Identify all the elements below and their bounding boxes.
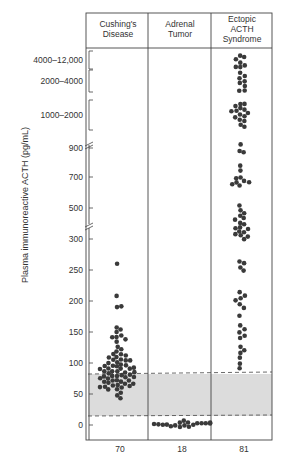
data-point	[98, 385, 103, 390]
y-tick-label: 300	[13, 234, 83, 244]
header-line: Disease	[88, 29, 148, 39]
data-point	[152, 422, 157, 427]
data-point	[123, 358, 128, 363]
data-point	[242, 237, 247, 242]
y-tick-label: 100	[13, 358, 83, 368]
data-point	[241, 216, 246, 221]
data-point	[242, 211, 247, 216]
data-point	[238, 296, 243, 301]
data-point	[238, 65, 243, 70]
data-point	[234, 108, 239, 113]
data-point	[128, 372, 133, 377]
data-point	[115, 387, 120, 392]
data-point	[111, 383, 116, 388]
data-point	[115, 378, 120, 383]
y-tick-label: 500	[13, 203, 83, 213]
y-tick-label: 50	[13, 389, 83, 399]
data-point	[181, 418, 186, 423]
data-point	[238, 168, 243, 173]
data-point	[169, 424, 174, 429]
data-point	[115, 305, 120, 310]
data-point	[191, 423, 196, 428]
data-point	[123, 353, 128, 358]
data-point	[195, 421, 200, 426]
data-point	[237, 366, 242, 371]
data-point	[241, 150, 246, 155]
data-point	[106, 380, 111, 385]
header-line: Tumor	[150, 29, 210, 39]
count-adrenal: 18	[162, 444, 202, 454]
data-point	[242, 306, 247, 311]
data-point	[102, 379, 107, 384]
data-point	[156, 422, 161, 427]
data-point	[114, 294, 119, 299]
data-point	[238, 355, 243, 360]
data-point	[238, 81, 243, 86]
data-point	[233, 115, 238, 120]
data-point	[238, 53, 243, 58]
data-point	[242, 107, 247, 112]
data-point	[237, 203, 242, 208]
data-point	[123, 337, 128, 342]
y-tick-label: 250	[13, 265, 83, 275]
data-point	[246, 234, 251, 239]
data-point	[238, 361, 243, 366]
data-point	[238, 323, 243, 328]
range-bracket-label: 4000–12,000	[13, 55, 83, 65]
data-point	[119, 357, 124, 362]
data-point	[233, 217, 238, 222]
data-point	[132, 370, 137, 375]
data-point	[165, 422, 170, 427]
data-point	[237, 314, 242, 319]
y-tick-label: 900	[13, 143, 83, 153]
data-point	[114, 335, 119, 340]
range-bracket-label: 1000–2000	[13, 110, 83, 120]
data-point	[178, 420, 183, 425]
count-cushings: 70	[100, 444, 140, 454]
header-adrenal-tumor: Adrenal Tumor	[150, 19, 210, 39]
data-point	[237, 76, 242, 81]
y-tick-label: 150	[13, 327, 83, 337]
data-point	[124, 363, 129, 368]
data-point	[238, 175, 243, 180]
header-line: Adrenal	[150, 19, 210, 29]
data-point	[123, 381, 128, 386]
header-line: ACTH	[212, 24, 272, 34]
data-point	[238, 233, 243, 238]
data-point	[242, 327, 247, 332]
data-point	[234, 65, 239, 70]
data-point	[237, 290, 242, 295]
data-point	[107, 355, 112, 360]
data-point	[238, 336, 243, 341]
data-point	[102, 369, 107, 374]
data-point	[114, 330, 119, 335]
data-point	[237, 88, 242, 93]
data-point	[208, 420, 213, 425]
data-point	[233, 232, 238, 237]
data-point	[238, 60, 243, 65]
data-point	[242, 88, 247, 93]
data-point	[106, 366, 111, 371]
data-point	[111, 363, 116, 368]
data-point	[119, 352, 124, 357]
data-point	[187, 424, 192, 429]
data-point	[110, 378, 115, 383]
data-point	[110, 335, 115, 340]
data-point	[242, 55, 247, 60]
data-point	[238, 351, 243, 356]
data-point	[234, 176, 239, 181]
data-point	[119, 385, 124, 390]
count-ectopic: 81	[224, 444, 264, 454]
range-brackets	[89, 51, 93, 130]
data-point	[128, 358, 133, 363]
data-point	[247, 180, 252, 185]
data-point	[237, 302, 242, 307]
data-point	[110, 374, 115, 379]
data-point	[119, 379, 124, 384]
data-point	[106, 361, 111, 366]
data-point	[237, 149, 242, 154]
data-point	[178, 425, 183, 430]
data-point	[243, 84, 248, 89]
data-point	[238, 112, 243, 117]
data-point	[242, 179, 247, 184]
